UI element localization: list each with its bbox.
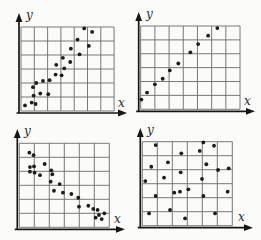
data-point <box>161 77 165 81</box>
data-point <box>34 102 38 106</box>
data-point <box>96 208 100 212</box>
data-point <box>49 180 53 184</box>
data-point <box>32 165 36 169</box>
data-point <box>43 162 47 166</box>
y-axis-arrow-icon <box>137 128 144 137</box>
data-point <box>86 204 90 208</box>
data-point <box>46 92 50 96</box>
scatter-plot-bottom-right-canvas: y x <box>130 120 261 240</box>
data-point <box>178 190 182 194</box>
data-point <box>166 160 170 164</box>
x-axis-arrow-icon <box>246 108 255 115</box>
y-axis-arrow-icon <box>135 12 142 21</box>
data-point <box>27 151 31 155</box>
data-point <box>48 78 52 82</box>
axes <box>137 128 253 231</box>
data-point <box>102 211 106 215</box>
data-point <box>201 194 205 198</box>
data-point <box>153 82 157 86</box>
data-point <box>188 50 192 54</box>
data-point <box>68 60 72 64</box>
x-axis-arrow-icon <box>116 226 125 233</box>
data-point <box>179 170 183 174</box>
scatter-plot-top-left-canvas: y x <box>0 0 130 120</box>
data-point <box>204 162 208 166</box>
data-point <box>54 73 58 77</box>
data-point <box>147 211 151 215</box>
data-point <box>154 194 158 198</box>
scatter-plot-top-right: y x <box>130 0 261 120</box>
data-point <box>34 81 38 85</box>
data-point <box>168 208 172 212</box>
data-points <box>140 26 220 101</box>
data-point <box>168 69 172 73</box>
grid-lines <box>21 27 114 111</box>
axes <box>14 129 125 233</box>
grid-lines <box>142 142 232 226</box>
data-points <box>23 27 94 108</box>
data-point <box>154 143 158 147</box>
data-point <box>28 170 32 174</box>
data-point <box>172 191 176 195</box>
data-point <box>201 141 205 145</box>
data-point <box>23 104 27 108</box>
x-axis-label: x <box>118 96 125 110</box>
data-point <box>216 168 220 172</box>
data-point <box>200 177 204 181</box>
scatter-plot-top-right-canvas: y x <box>130 0 261 120</box>
data-point <box>94 216 98 220</box>
data-point <box>226 190 230 194</box>
y-axis-label: y <box>146 123 154 137</box>
data-point <box>69 192 73 196</box>
data-point <box>82 27 86 31</box>
data-point <box>69 47 73 51</box>
x-axis-label: x <box>244 94 251 108</box>
data-point <box>76 38 80 42</box>
y-axis-label: y <box>25 8 33 22</box>
grid-lines <box>141 26 240 109</box>
y-axis-label: y <box>145 7 153 21</box>
data-point <box>76 196 80 200</box>
data-point <box>30 101 34 105</box>
scatter-plot-bottom-left-canvas: y x <box>0 120 130 240</box>
x-axis-label: x <box>114 212 121 226</box>
data-point <box>143 179 147 183</box>
data-point <box>212 144 216 148</box>
data-point <box>50 172 54 176</box>
y-axis-arrow-icon <box>14 129 21 138</box>
data-point <box>91 207 95 211</box>
data-point <box>100 217 104 221</box>
data-point <box>77 205 81 209</box>
data-point <box>145 91 149 95</box>
data-point <box>49 168 53 172</box>
data-point <box>90 30 94 34</box>
data-point <box>61 56 65 60</box>
data-point <box>87 44 91 48</box>
data-point <box>198 149 202 153</box>
scatter-plot-bottom-left: y x <box>0 120 130 240</box>
data-point <box>32 153 36 157</box>
data-point <box>28 165 32 169</box>
data-point <box>32 94 36 98</box>
data-point <box>179 151 183 155</box>
scatter-plot-top-left: y x <box>0 0 130 120</box>
data-point <box>61 191 65 195</box>
data-point <box>58 182 62 186</box>
data-point <box>196 42 200 46</box>
scatter-plot-bottom-right: y x <box>130 120 261 240</box>
data-point <box>38 92 42 96</box>
y-axis-label: y <box>23 124 31 138</box>
data-point <box>60 73 64 77</box>
data-point <box>140 98 144 102</box>
figure-scatter-plots-grid: y x y x y x y x <box>0 0 261 240</box>
data-point <box>186 187 190 191</box>
x-axis-arrow-icon <box>118 110 127 117</box>
axes <box>135 12 255 115</box>
data-point <box>78 52 82 56</box>
data-point <box>206 34 210 38</box>
data-point <box>227 166 231 170</box>
data-point <box>183 217 187 221</box>
data-point <box>38 173 42 177</box>
data-point <box>31 85 35 89</box>
data-point <box>52 189 56 193</box>
